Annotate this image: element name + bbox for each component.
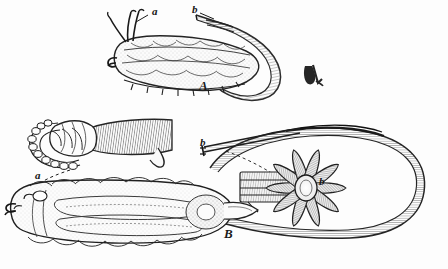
figure-a-part-label-b: b: [192, 4, 198, 15]
figure-b-radial-rosette: [266, 148, 346, 227]
rosette-core: [295, 175, 317, 201]
printers-mark-shape: [304, 65, 323, 86]
figure-b-part-label-b-left: b: [200, 137, 206, 148]
figure-b-part-label-b-right: b: [319, 176, 325, 187]
figure-b-part-label-a: a: [35, 170, 41, 181]
figure-label-a: A: [199, 79, 208, 92]
figure-label-b: B: [224, 227, 233, 240]
figure-b-group: [5, 119, 425, 246]
figure-a-part-label-a: a: [152, 6, 158, 17]
figure-a-body: [114, 36, 259, 96]
figure-a-group: [108, 10, 281, 101]
illustration-plate: A B a b a b b: [0, 0, 448, 269]
figure-b-body: [5, 178, 258, 247]
